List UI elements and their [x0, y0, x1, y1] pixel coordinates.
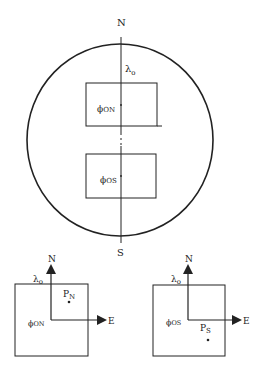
globe: N S λo ϕON ϕOS: [27, 17, 213, 258]
north-label: N: [117, 17, 126, 28]
phi-on-label: ϕON: [97, 104, 115, 114]
south-zone-inset: N E λo ϕOS PS: [153, 254, 250, 356]
point-pn-dot: [68, 301, 71, 304]
north-zone-inset: N E λo ϕON PN: [15, 254, 115, 356]
diagram-canvas: N S λo ϕON ϕOS N E λo ϕON PN N E λo ϕOS …: [0, 0, 261, 377]
north-origin-dot: [120, 104, 122, 106]
phi-os-label: ϕOS: [166, 318, 181, 327]
north-label: N: [48, 254, 56, 264]
east-label: E: [108, 316, 115, 326]
phi-on-label: ϕON: [28, 319, 45, 328]
south-origin-dot: [120, 175, 122, 177]
lambda-label: λo: [171, 274, 181, 286]
lambda-label: λo: [125, 63, 136, 77]
south-label: S: [117, 247, 124, 258]
point-ps-label: PS: [200, 323, 211, 335]
north-label: N: [185, 254, 193, 264]
globe-circle: [27, 44, 213, 236]
east-label: E: [243, 316, 250, 326]
point-pn-label: PN: [63, 289, 75, 301]
phi-os-label: ϕOS: [100, 175, 117, 185]
point-ps-dot: [207, 339, 210, 342]
